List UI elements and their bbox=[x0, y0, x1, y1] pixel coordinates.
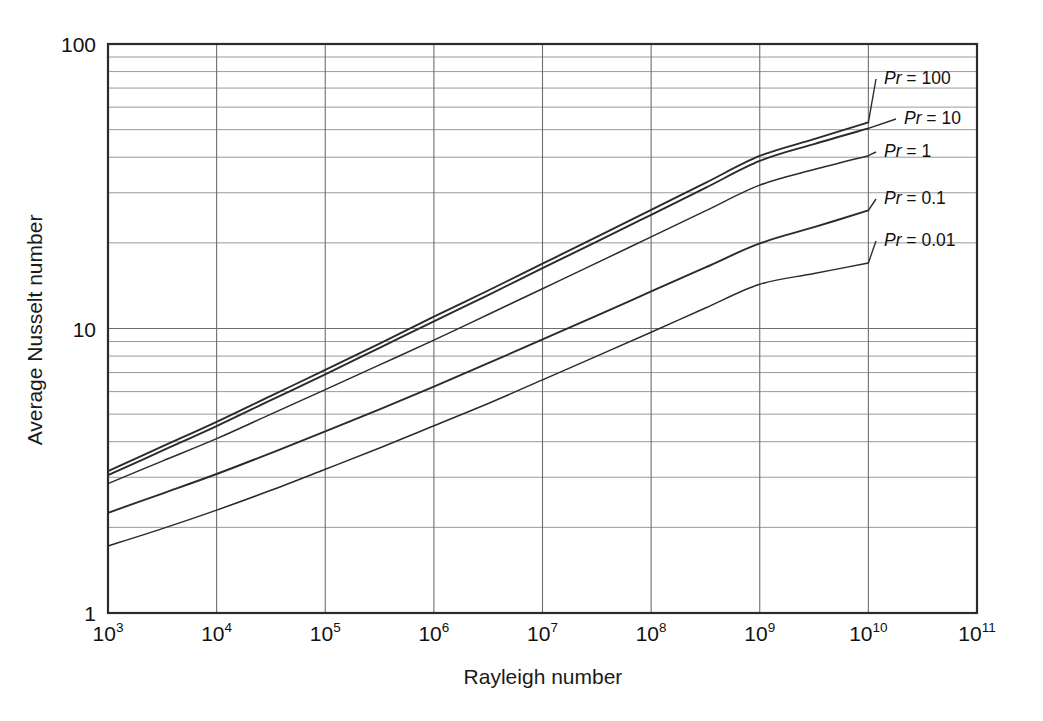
y-tick-label: 10 bbox=[73, 318, 96, 341]
series-label-pr-0-01: Pr = 0.01 bbox=[884, 230, 956, 250]
series-label-pr-1: Pr = 1 bbox=[884, 141, 931, 161]
x-axis-title: Rayleigh number bbox=[464, 665, 623, 688]
y-axis-title: Average Nusselt number bbox=[23, 215, 46, 446]
chart-container: 10310410510610710810910101011 110100 Pr … bbox=[0, 0, 1043, 721]
y-tick-label: 1 bbox=[84, 602, 96, 625]
nusselt-rayleigh-log-log-chart: 10310410510610710810910101011 110100 Pr … bbox=[0, 0, 1043, 721]
series-label-pr-0-1: Pr = 0.1 bbox=[884, 188, 946, 208]
series-label-pr-100: Pr = 100 bbox=[884, 68, 951, 88]
series-label-pr-10: Pr = 10 bbox=[904, 108, 961, 128]
y-tick-label: 100 bbox=[61, 33, 96, 56]
